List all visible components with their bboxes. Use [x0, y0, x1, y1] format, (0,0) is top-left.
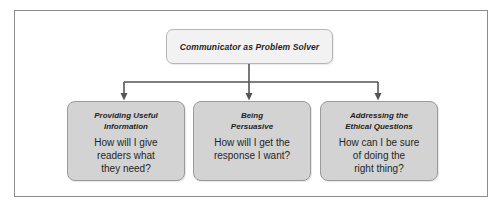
child-node-question: How will I get the response I want?	[202, 136, 302, 162]
child-node-title: Providing Useful Information	[74, 111, 178, 132]
child-node-question: How can I be sure of doing the right thi…	[329, 136, 429, 175]
child-node-being-persuasive: Being Persuasive How will I get the resp…	[193, 101, 311, 181]
child-node-addressing-ethical-questions: Addressing the Ethical Questions How can…	[320, 101, 438, 181]
root-node-title: Communicator as Problem Solver	[180, 42, 320, 52]
root-node: Communicator as Problem Solver	[166, 29, 333, 64]
child-node-title: Being Persuasive	[200, 111, 304, 132]
child-node-question: How will I give readers what they need?	[76, 136, 176, 175]
child-node-title: Addressing the Ethical Questions	[327, 111, 431, 132]
child-node-providing-useful-information: Providing Useful Information How will I …	[67, 101, 185, 181]
